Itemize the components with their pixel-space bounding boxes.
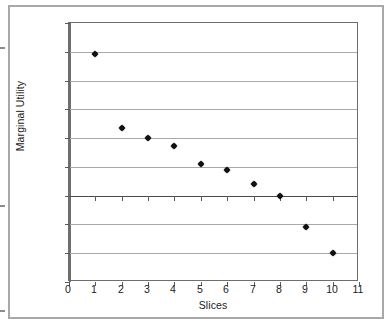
y-tick-mark bbox=[65, 196, 70, 197]
gridline bbox=[69, 167, 357, 168]
x-tick-label: 9 bbox=[290, 283, 320, 295]
data-point bbox=[329, 250, 336, 257]
x-tick-mark bbox=[148, 196, 149, 201]
x-tick-mark bbox=[254, 196, 255, 201]
y-tick-mark bbox=[65, 224, 70, 225]
data-point bbox=[145, 135, 152, 142]
gridline bbox=[69, 81, 357, 82]
y-tick-mark bbox=[65, 109, 70, 110]
scan-edge-mark bbox=[0, 310, 5, 312]
y-axis-title: Marginal Utility bbox=[14, 66, 26, 166]
x-tick-label: 4 bbox=[158, 283, 188, 295]
y-tick-mark bbox=[65, 52, 70, 53]
data-point bbox=[276, 192, 283, 199]
x-tick-mark bbox=[201, 196, 202, 201]
x-tick-label: 1 bbox=[79, 283, 109, 295]
x-axis-title: Slices bbox=[68, 299, 358, 311]
y-tick-mark bbox=[65, 138, 70, 139]
chart-figure: Marginal Utility Slices 302520151050–5–1… bbox=[0, 0, 392, 325]
x-tick-label: 11 bbox=[343, 283, 373, 295]
y-tick-mark bbox=[65, 167, 70, 168]
gridline bbox=[69, 253, 357, 254]
data-point bbox=[171, 142, 178, 149]
x-tick-label: 6 bbox=[211, 283, 241, 295]
x-tick-mark bbox=[227, 196, 228, 201]
data-point bbox=[250, 180, 257, 187]
data-point bbox=[118, 124, 125, 131]
scan-edge-mark bbox=[0, 205, 5, 207]
y-axis-line bbox=[69, 23, 71, 282]
gridline bbox=[69, 109, 357, 110]
plot-area: 302520151050–5–10–15 bbox=[68, 22, 358, 281]
x-tick-mark bbox=[306, 196, 307, 201]
x-tick-mark bbox=[95, 196, 96, 201]
zero-gridline bbox=[69, 196, 357, 197]
y-tick-mark bbox=[65, 253, 70, 254]
gridline bbox=[69, 224, 357, 225]
gridline bbox=[69, 138, 357, 139]
x-tick-mark bbox=[122, 196, 123, 201]
x-tick-mark bbox=[333, 196, 334, 201]
gridline bbox=[69, 52, 357, 53]
y-tick-mark bbox=[65, 23, 70, 24]
scan-edge-mark bbox=[0, 47, 5, 49]
y-tick-mark bbox=[65, 81, 70, 82]
x-tick-mark bbox=[174, 196, 175, 201]
